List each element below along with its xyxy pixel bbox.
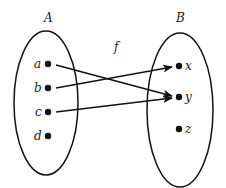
set-b-ellipse bbox=[147, 33, 213, 187]
set-b-label: B bbox=[175, 11, 185, 25]
element-x-dot bbox=[176, 63, 182, 69]
function-mapping-diagram: A B f a b c d x y bbox=[0, 0, 226, 188]
element-d: d bbox=[34, 129, 51, 143]
element-a: a bbox=[34, 57, 51, 71]
element-c-dot bbox=[45, 109, 51, 115]
element-x: x bbox=[176, 59, 192, 73]
element-a-dot bbox=[45, 61, 51, 67]
arrow-c-to-y bbox=[56, 98, 172, 112]
element-d-label: d bbox=[34, 129, 42, 143]
element-b: b bbox=[34, 81, 51, 95]
element-z-dot bbox=[176, 126, 182, 132]
element-b-dot bbox=[45, 85, 51, 91]
element-y-dot bbox=[176, 94, 182, 100]
element-z-label: z bbox=[184, 122, 192, 136]
element-a-label: a bbox=[34, 57, 41, 71]
element-d-dot bbox=[45, 133, 51, 139]
element-b-label: b bbox=[34, 81, 42, 95]
element-c: c bbox=[35, 105, 51, 119]
function-label: f bbox=[113, 40, 121, 54]
element-z: z bbox=[176, 122, 192, 136]
set-a-label: A bbox=[43, 11, 53, 25]
element-c-label: c bbox=[35, 105, 42, 119]
set-a-ellipse bbox=[14, 31, 78, 175]
element-y: y bbox=[176, 90, 192, 104]
element-y-label: y bbox=[184, 90, 192, 104]
element-x-label: x bbox=[185, 59, 192, 73]
